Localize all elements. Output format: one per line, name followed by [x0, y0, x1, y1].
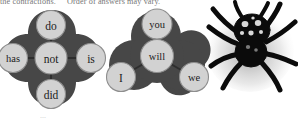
bubble-we-label: we	[188, 72, 201, 83]
bubble-i[interactable]: I	[107, 63, 136, 92]
contraction-web-left: do has is did not	[0, 8, 110, 112]
bubble-not-label: not	[44, 53, 60, 65]
bubble-do-label: do	[45, 20, 57, 32]
bubble-has-label: has	[6, 53, 20, 64]
bubble-you-label: you	[149, 19, 166, 30]
contraction-web-right: you I we will	[108, 10, 228, 106]
bubble-we[interactable]: we	[180, 63, 209, 92]
bubble-will-center[interactable]: will	[141, 40, 174, 73]
bubble-not-center[interactable]: not	[35, 42, 67, 74]
bubble-will-label: will	[149, 51, 165, 62]
bubble-has[interactable]: has	[0, 44, 28, 73]
bubble-i-label: I	[119, 72, 123, 84]
instruction-fragment-left: the contractions.	[0, 0, 56, 6]
bottom-caption: ...	[40, 111, 110, 121]
bubble-you[interactable]: you	[142, 9, 172, 39]
bubble-is-label: is	[87, 53, 95, 65]
bubble-did-label: did	[44, 89, 59, 101]
instruction-fragment-right: Order of answers may vary.	[67, 0, 160, 6]
worksheet-figure: the contractions. Order of answers may v…	[0, 0, 298, 121]
bubble-is[interactable]: is	[77, 44, 106, 73]
bubble-do[interactable]: do	[37, 11, 66, 40]
bubble-did[interactable]: did	[37, 80, 66, 109]
